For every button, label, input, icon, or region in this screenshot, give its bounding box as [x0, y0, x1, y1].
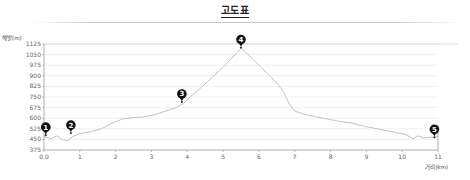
y-tick-label: 750 [30, 93, 42, 100]
x-tick-label: 9 [364, 153, 368, 160]
x-tick-label: 5 [221, 153, 225, 160]
waypoint-dot [70, 132, 72, 134]
waypoint-number: 2 [68, 122, 73, 130]
waypoint-number: 1 [43, 124, 48, 132]
y-tick-label: 675 [30, 104, 42, 111]
waypoint-number: 5 [432, 126, 437, 134]
waypoint-dot [181, 101, 183, 103]
x-tick-label: 1 [78, 153, 82, 160]
y-tick-label: 525 [30, 125, 42, 132]
y-tick-label: 600 [30, 114, 42, 121]
waypoint-dot [240, 46, 242, 48]
y-tick-label: 975 [30, 61, 42, 68]
x-tick-label: 10 [398, 153, 406, 160]
y-tick-label: 375 [30, 146, 42, 153]
waypoint-number: 3 [179, 90, 184, 98]
elevation-chart: 112510509759008257506756005254503750.012… [0, 0, 470, 180]
x-tick-label: 6 [257, 153, 261, 160]
waypoint-dot [433, 136, 435, 138]
waypoint-dot [45, 134, 47, 136]
x-tick-label: 8 [329, 153, 333, 160]
elevation-profile-line [44, 48, 438, 141]
x-tick-label: 11 [434, 153, 442, 160]
x-tick-label: 7 [293, 153, 297, 160]
y-tick-label: 900 [30, 72, 42, 79]
x-tick-label: 4 [185, 153, 189, 160]
y-axis-title: 해발(m) [2, 34, 22, 42]
y-tick-label: 450 [30, 135, 42, 142]
x-tick-label: 2 [114, 153, 118, 160]
x-tick-label: 3 [150, 153, 154, 160]
y-tick-label: 1125 [26, 40, 41, 47]
x-axis-title: 거리(km) [425, 163, 448, 171]
y-tick-label: 825 [30, 82, 42, 89]
waypoint-number: 4 [239, 36, 244, 44]
x-tick-label: 0.0 [39, 153, 49, 160]
y-tick-label: 1050 [26, 51, 41, 58]
